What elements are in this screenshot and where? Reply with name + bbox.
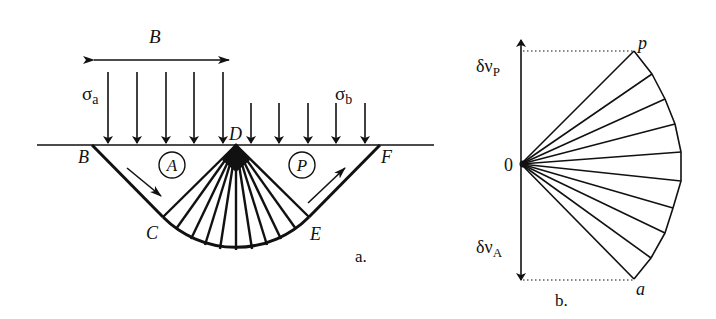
slip-line-bc (92, 145, 163, 217)
load-right (251, 103, 365, 143)
zone-active: A (159, 152, 185, 178)
point-a-label: a (636, 279, 645, 299)
zone-passive: P (289, 152, 315, 178)
figure-canvas: B σa σb (0, 0, 716, 319)
point-e-label: E (309, 224, 321, 244)
panel-b: 0 δνP δνA p a b. (476, 33, 681, 310)
velocity-bottom-label: δνA (476, 237, 503, 260)
origin-point (520, 161, 527, 168)
load-right-label: σb (335, 83, 352, 107)
load-left (108, 72, 223, 143)
width-label: B (149, 26, 161, 47)
velocity-top-label: δνP (476, 56, 500, 79)
panel-a-caption: a. (355, 247, 367, 266)
point-d-label: D (228, 124, 242, 144)
width-dimension: B (94, 26, 229, 60)
point-b-label: B (78, 147, 89, 167)
panel-a: B σa σb (37, 26, 434, 266)
hodograph-arc (634, 51, 681, 279)
movement-arrow-icon (127, 168, 161, 196)
point-f-label: F (380, 147, 393, 167)
point-c-label: C (146, 223, 159, 243)
panel-b-caption: b. (555, 291, 568, 310)
svg-text:P: P (296, 156, 307, 175)
point-p-label: p (636, 33, 647, 53)
load-left-label: σa (82, 83, 99, 107)
svg-text:A: A (166, 156, 178, 175)
origin-label: 0 (504, 155, 513, 175)
hodograph-fan (521, 51, 681, 279)
slip-line-ef (309, 145, 380, 217)
